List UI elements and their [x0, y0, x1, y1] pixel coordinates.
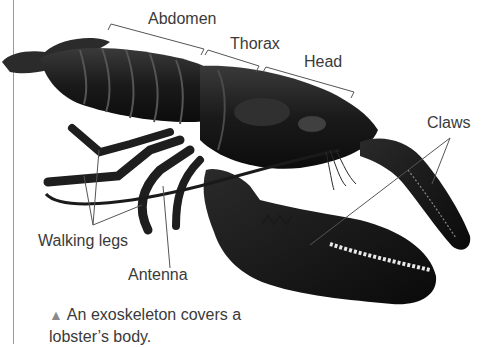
caption-text: An exoskeleton covers a lobster’s body. — [49, 306, 241, 345]
label-head: Head — [304, 53, 342, 71]
lobster-abdomen — [40, 48, 222, 124]
label-thorax: Thorax — [230, 35, 280, 53]
label-claws: Claws — [427, 114, 471, 132]
lobster-walking-legs — [48, 128, 200, 230]
caption-triangle-icon: ▲ — [49, 307, 63, 323]
figure-caption: ▲An exoskeleton covers a lobster’s body. — [49, 304, 279, 348]
lobster-claw-large — [204, 169, 437, 304]
lobster-carapace — [200, 66, 378, 169]
label-antenna: Antenna — [128, 266, 188, 284]
label-walking-legs: Walking legs — [38, 232, 128, 250]
label-abdomen: Abdomen — [148, 10, 217, 28]
